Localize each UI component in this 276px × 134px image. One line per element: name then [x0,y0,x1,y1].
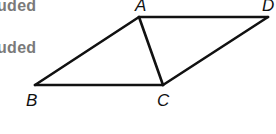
edge-BA [35,17,139,85]
vertex-label-a: A [134,0,146,15]
vertex-label-c: C [157,91,170,110]
diagonal-AC [139,17,163,85]
vertex-label-b: B [26,91,37,110]
parallelogram-diagram: A D B C [0,0,276,134]
vertex-label-d: D [262,0,274,15]
edge-DC [163,17,268,85]
